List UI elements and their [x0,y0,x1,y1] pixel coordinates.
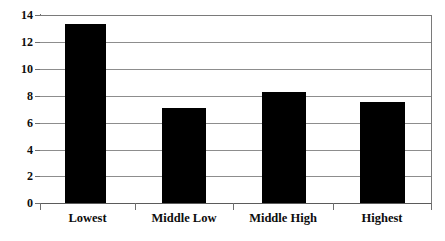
category-separator-1 [135,203,136,210]
category-label-highest: Highest [333,212,431,226]
category-label-middle-high: Middle High [233,212,333,226]
category-label-lowest: Lowest [40,212,135,226]
y-axis-tick-labels: 14 12 10 8 6 4 2 0 [0,0,33,241]
bar-chart: 14 12 10 8 6 4 2 0 Lowest Middle Low Mi [0,0,445,241]
category-label-middle-low: Middle Low [135,212,233,226]
y-tick-label-2: 2 [27,170,33,182]
category-separator-4 [431,203,432,210]
plot-area [40,15,432,203]
bar-lowest [65,24,106,203]
category-separator-2 [233,203,234,210]
y-tick-label-12: 12 [21,36,33,48]
y-tick-label-0: 0 [27,197,33,209]
bar-highest [360,102,405,203]
y-tick-label-10: 10 [21,63,33,75]
bar-middle-low [162,108,206,203]
bar-middle-high [262,92,306,203]
category-separator-0 [40,203,41,210]
y-tick-label-4: 4 [27,144,33,156]
y-tick-label-6: 6 [27,117,33,129]
category-separator-3 [333,203,334,210]
y-tick-label-14: 14 [21,9,33,21]
y-tick-label-8: 8 [27,90,33,102]
gridline-0-baseline [40,203,431,204]
